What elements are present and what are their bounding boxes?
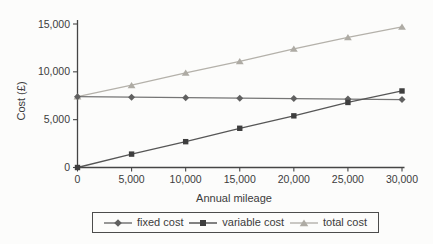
series-marker-variable-cost-3 (237, 126, 242, 131)
x-tick-label: 25,000 (332, 173, 364, 185)
series-marker-fixed-cost-3 (236, 95, 243, 102)
y-tick-label: 5,000 (44, 113, 70, 125)
legend-item-total-cost: total cost (290, 217, 367, 228)
y-tick-label: 10,000 (38, 65, 70, 77)
legend-item-fixed-cost: fixed cost (104, 217, 183, 228)
legend-label-fixed-cost: fixed cost (137, 217, 183, 228)
series-marker-fixed-cost-6 (399, 96, 406, 103)
x-tick-label: 0 (75, 173, 81, 185)
legend-label-variable-cost: variable cost (222, 217, 284, 228)
legend-item-variable-cost: variable cost (189, 217, 284, 228)
triangle-marker-icon (290, 218, 318, 228)
x-tick-label: 30,000 (386, 173, 418, 185)
x-tick-label: 15,000 (224, 173, 256, 185)
diamond-marker-icon (104, 218, 132, 228)
chart-legend: fixed cost variable cost total cost (92, 212, 379, 233)
x-tick-label: 20,000 (278, 173, 310, 185)
series-marker-variable-cost-2 (183, 139, 188, 144)
x-tick-label: 10,000 (170, 173, 202, 185)
legend-label-total-cost: total cost (323, 217, 367, 228)
series-marker-variable-cost-0 (75, 165, 80, 170)
series-marker-variable-cost-1 (129, 151, 134, 156)
cost-chart: 05,00010,00015,00005,00010,00015,00020,0… (0, 0, 433, 244)
y-tick-label: 15,000 (38, 18, 70, 30)
series-marker-fixed-cost-2 (182, 94, 189, 101)
series-marker-variable-cost-5 (345, 100, 350, 105)
y-tick-label: 0 (64, 161, 70, 173)
series-marker-variable-cost-4 (291, 113, 296, 118)
series-marker-variable-cost-6 (399, 88, 404, 93)
series-marker-fixed-cost-1 (128, 94, 135, 101)
cost-chart-figure: 05,00010,00015,00005,00010,00015,00020,0… (0, 0, 433, 244)
square-marker-icon (189, 218, 217, 228)
series-marker-total-cost-6 (398, 24, 406, 30)
x-tick-label: 5,000 (118, 173, 144, 185)
y-axis-title: Cost (£) (15, 81, 27, 120)
x-axis-title: Annual mileage (196, 192, 272, 204)
series-marker-fixed-cost-4 (290, 95, 297, 102)
